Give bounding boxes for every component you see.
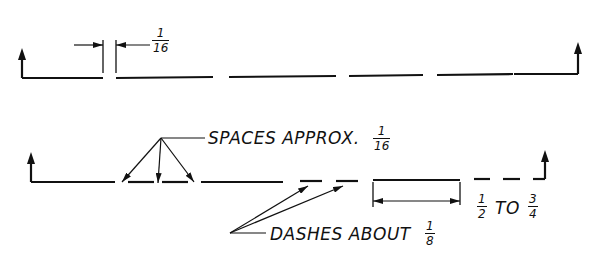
top-left-arrow-icon [18, 48, 26, 60]
length-to-fraction: 3 4 [528, 193, 538, 220]
fraction-numerator: 1 [377, 125, 387, 137]
fraction-denominator: 4 [528, 208, 538, 220]
fraction-numerator: 1 [425, 220, 435, 232]
top-dashed-line [22, 52, 578, 78]
length-from-fraction: 1 2 [477, 193, 487, 220]
top-gap-fraction: 1 16 [152, 27, 169, 54]
spaces-label: SPACES APPROX. [208, 128, 360, 148]
fraction-numerator: 1 [156, 27, 166, 39]
top-dash-3 [349, 75, 423, 76]
bottom-dashed-line [31, 160, 545, 182]
bottom-right-arrow-icon [541, 150, 549, 162]
top-dash-2 [229, 76, 336, 77]
spaces-fraction: 1 16 [373, 125, 390, 152]
top-right-arrow-icon [574, 42, 582, 54]
fraction-numerator: 1 [477, 193, 487, 205]
dashes-label: DASHES ABOUT [270, 224, 411, 244]
fraction-denominator: 16 [373, 140, 390, 152]
fraction-numerator: 3 [528, 193, 538, 205]
fraction-denominator: 16 [152, 42, 169, 54]
bottom-left-arrow-icon [27, 152, 35, 164]
fraction-denominator: 2 [477, 208, 487, 220]
top-dash-4 [437, 74, 513, 75]
top-dash-1 [116, 77, 213, 78]
fraction-denominator: 8 [425, 235, 435, 247]
dashes-fraction: 1 8 [425, 220, 435, 247]
length-to-word: TO [495, 198, 520, 218]
